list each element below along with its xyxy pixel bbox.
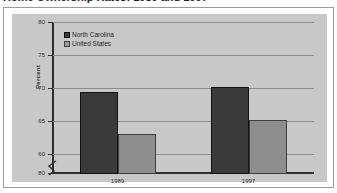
legend-item-united-states: United States: [64, 39, 114, 48]
bar-north-carolina-1997: [211, 87, 249, 174]
gridline-70: [52, 88, 314, 89]
bar-united-states-1989: [118, 134, 156, 174]
bar-united-states-1997: [249, 120, 287, 174]
x-axis-label-1989: 1989: [111, 178, 124, 184]
y-tick-label-80: 80: [38, 19, 45, 25]
chart-legend: North Carolina United States: [64, 30, 114, 48]
axis-break-zigzag-icon: [47, 158, 61, 176]
y-tick-label-60: 60: [38, 151, 45, 157]
gridline-80: [52, 22, 314, 23]
legend-label-united-states: United States: [72, 39, 111, 48]
bar-north-carolina-1989: [80, 92, 118, 174]
y-tick-75: [48, 55, 53, 56]
legend-swatch-north-carolina: [64, 32, 70, 38]
chart-title-strip: Home Ownership Rates: 1989 and 1997: [0, 0, 337, 6]
y-tick-label-70: 70: [38, 85, 45, 91]
chart-panel: Percent 807570656080 19891997 North: [3, 7, 334, 188]
gridline-75: [52, 55, 314, 56]
y-tick-80: [48, 22, 53, 23]
page-title: Home Ownership Rates: 1989 and 1997: [3, 0, 208, 3]
x-axis-label-1997: 1997: [242, 178, 255, 184]
y-axis-line: [52, 22, 54, 174]
y-tick-label-75: 75: [38, 52, 45, 58]
y-tick-label-0: 80: [38, 170, 45, 176]
y-tick-65: [48, 121, 53, 122]
legend-swatch-united-states: [64, 41, 70, 47]
y-tick-70: [48, 88, 53, 89]
plot-canvas: Percent 807570656080 19891997 North: [12, 14, 327, 182]
legend-label-north-carolina: North Carolina: [72, 30, 114, 39]
y-tick-label-65: 65: [38, 118, 45, 124]
legend-item-north-carolina: North Carolina: [64, 30, 114, 39]
y-tick-60: [48, 154, 53, 155]
chart-screenshot: Home Ownership Rates: 1989 and 1997 Perc…: [0, 0, 337, 193]
